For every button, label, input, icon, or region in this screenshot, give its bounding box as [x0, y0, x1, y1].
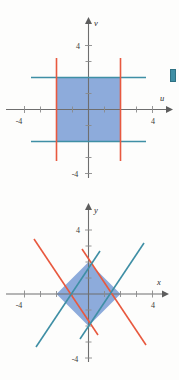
- v-tick-label-4: 4: [76, 42, 80, 51]
- y-axis-label: y: [93, 205, 98, 215]
- teal-swatch: [170, 69, 176, 82]
- x-axis-arrow: [162, 291, 169, 298]
- v-axis-arrow: [85, 17, 92, 24]
- xy-plane-figure: x y -4 4 4 -4: [0, 190, 179, 380]
- y-tick-label--4: -4: [72, 355, 79, 364]
- uv-plane-figure: u v -4 4 4 -4: [0, 0, 179, 190]
- y-axis-arrow: [85, 203, 92, 210]
- x-axis-label: x: [156, 277, 161, 287]
- xy-plane-svg: x y -4 4 4 -4: [0, 190, 179, 380]
- u-axis-arrow: [166, 106, 173, 113]
- u-tick-label--4: -4: [16, 117, 23, 126]
- x-tick-label-4: 4: [151, 301, 155, 310]
- v-axis-label: v: [94, 18, 98, 28]
- uv-plane-svg: u v -4 4 4 -4: [0, 0, 179, 190]
- y-tick-label-4: 4: [76, 226, 80, 235]
- u-axis-label: u: [160, 93, 164, 103]
- x-tick-label--4: -4: [16, 301, 23, 310]
- u-tick-label-4: 4: [151, 117, 155, 126]
- v-tick-label--4: -4: [72, 170, 79, 179]
